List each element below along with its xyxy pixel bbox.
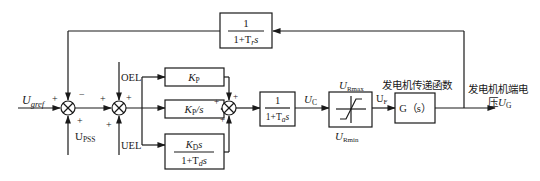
generator-block: 发电机传递函数 G（s） bbox=[382, 79, 453, 123]
sign-sum2-left: + bbox=[100, 93, 106, 104]
pid-branch bbox=[126, 77, 165, 145]
feedback-filter-block: 1 1+Trs bbox=[220, 13, 272, 48]
derivative-block: KDs 1+Tds bbox=[165, 134, 224, 169]
generator-caption: 发电机传递函数 bbox=[382, 79, 453, 91]
actuator-block: 1 1+Tas bbox=[260, 92, 295, 126]
output-caption-line1: 发电机机端电 bbox=[468, 83, 529, 95]
proportional-block: KP bbox=[165, 68, 224, 86]
oel-label: OEL bbox=[121, 72, 141, 83]
uel-label: UEL bbox=[121, 140, 141, 151]
sign-sum3-bottom: + bbox=[220, 114, 225, 124]
sign-sum3-top: + bbox=[233, 91, 238, 101]
avr-block-diagram: 1 1+Trs Ugref + − + UPSS + + + OEL UEL bbox=[0, 0, 540, 181]
summing-junction-3 bbox=[222, 101, 236, 115]
generator-transfer-label: G（s） bbox=[399, 103, 431, 114]
ugref-label: Ugref bbox=[22, 93, 46, 109]
urmax-label: URmax bbox=[339, 79, 364, 93]
uf-label: UF bbox=[376, 93, 388, 106]
sign-sum2-top: + bbox=[126, 92, 132, 103]
sign-sum2-bottom: + bbox=[106, 119, 112, 130]
limiter-block: URmax URmin bbox=[329, 79, 372, 144]
sign-sum3-left: + bbox=[214, 96, 219, 106]
upss-label: UPSS bbox=[75, 130, 95, 144]
feedback-numerator: 1 bbox=[243, 17, 249, 29]
sign-sum1-top: − bbox=[79, 89, 85, 100]
actuator-numerator: 1 bbox=[275, 95, 280, 106]
uel-input: UEL bbox=[119, 116, 141, 155]
uc-label: UC bbox=[304, 93, 317, 107]
sign-sum1-left: + bbox=[52, 93, 58, 104]
urmin-label: URmin bbox=[335, 130, 359, 144]
output-caption-line2: 压UG bbox=[488, 96, 512, 110]
sign-sum1-bottom: + bbox=[77, 115, 83, 126]
reference-input: Ugref + bbox=[18, 93, 60, 109]
